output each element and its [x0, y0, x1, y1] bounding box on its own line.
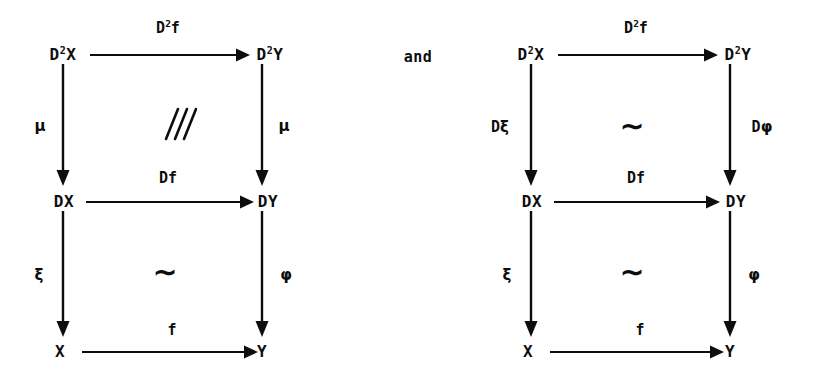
arrow-label-bottom: f: [635, 323, 644, 338]
node-top-left-suffix: X: [534, 45, 544, 64]
node-mid-right: DY: [726, 194, 746, 210]
arrow-label-lower-left-vertical: ξ: [503, 268, 512, 283]
node-top-right-suffix: Y: [273, 45, 283, 64]
conjunction-text: and: [404, 48, 432, 66]
node-top-right: D2Y: [725, 47, 752, 63]
arrow-label-top: D2f: [156, 21, 180, 36]
diagram-right: D2X D2Y DX DY X Y D2f Df f Dξ Dφ ξ φ ∼ ∼: [486, 0, 816, 380]
fill-mark-upper-square-slashes: [163, 105, 197, 143]
node-top-left-base: D: [518, 45, 528, 64]
fill-mark-lower-square-tilde: ∼: [619, 257, 644, 287]
arrow-label-top-base: D: [624, 19, 633, 37]
arrow-label-middle: Df: [159, 171, 177, 186]
arrow-top-horizontal-right: [558, 51, 718, 59]
node-mid-left: DX: [54, 194, 74, 210]
arrow-label-middle: Df: [627, 171, 645, 186]
node-top-right-base: D: [257, 45, 267, 64]
arrow-label-lower-left-vertical: ξ: [35, 268, 44, 283]
node-bottom-left: X: [55, 344, 65, 360]
node-bottom-right: Y: [257, 344, 267, 360]
arrow-label-upper-left-prefix: D: [491, 118, 500, 136]
node-top-right-suffix: Y: [741, 45, 751, 64]
arrow-label-upper-right-greek: φ: [761, 118, 773, 136]
arrow-label-lower-right-vertical: φ: [748, 268, 760, 283]
arrow-upper-left-vertical-left: [59, 64, 67, 186]
node-mid-left: DX: [522, 194, 542, 210]
slashes-icon: [163, 105, 197, 143]
arrow-label-upper-right-vertical: Dφ: [752, 120, 773, 135]
arrow-middle-horizontal-right: [554, 198, 720, 206]
arrow-label-bottom: f: [167, 323, 176, 338]
node-top-left: D2X: [50, 47, 77, 63]
arrow-upper-right-vertical-right: [726, 64, 734, 186]
arrow-middle-horizontal-left: [86, 198, 254, 206]
node-mid-right: DY: [258, 194, 278, 210]
arrow-top-horizontal-left: [90, 51, 250, 59]
arrow-lower-right-vertical-right: [726, 211, 734, 337]
arrow-lower-left-vertical-right: [527, 211, 535, 337]
arrow-label-top-base: D: [156, 19, 165, 37]
node-bottom-right: Y: [725, 344, 735, 360]
arrow-lower-right-vertical-left: [258, 211, 266, 337]
arrow-label-upper-left-vertical: μ: [34, 119, 45, 134]
arrow-label-top-suffix: f: [171, 19, 180, 37]
arrow-upper-right-vertical-left: [258, 64, 266, 186]
fill-mark-upper-square-tilde: ∼: [619, 111, 644, 141]
arrow-label-upper-right-vertical: μ: [278, 119, 289, 134]
arrow-lower-left-vertical-left: [59, 211, 67, 337]
node-top-left-suffix: X: [66, 45, 76, 64]
arrow-label-upper-left-vertical: Dξ: [491, 120, 509, 135]
node-top-left: D2X: [518, 47, 545, 63]
arrow-label-upper-left-greek: ξ: [500, 118, 509, 136]
arrow-bottom-horizontal-right: [550, 348, 724, 356]
arrow-upper-left-vertical-right: [527, 64, 535, 186]
arrow-bottom-horizontal-left: [82, 348, 258, 356]
diagram-left: D2X D2Y DX DY X Y D2f Df f μ μ ξ φ: [20, 0, 350, 380]
arrow-label-upper-right-prefix: D: [752, 118, 761, 136]
node-top-right-base: D: [725, 45, 735, 64]
arrow-label-top-suffix: f: [639, 19, 648, 37]
arrow-label-top: D2f: [624, 21, 648, 36]
fill-mark-lower-square-tilde: ∼: [152, 257, 177, 287]
node-bottom-left: X: [523, 344, 533, 360]
node-top-right: D2Y: [257, 47, 284, 63]
commutative-diagram-figure: D2X D2Y DX DY X Y D2f Df f μ μ ξ φ: [0, 0, 836, 380]
node-top-left-base: D: [50, 45, 60, 64]
arrow-label-lower-right-vertical: φ: [280, 268, 292, 283]
